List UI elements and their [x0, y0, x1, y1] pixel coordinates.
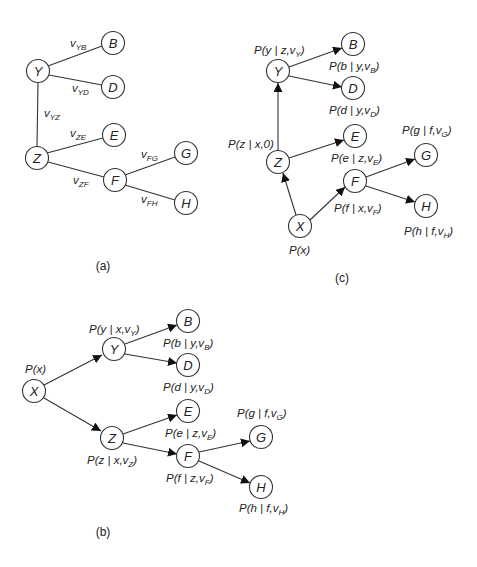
prob-b-f: P(f | z,vF)	[166, 472, 214, 487]
svg-text:E: E	[351, 129, 360, 144]
node-a-h: H	[175, 192, 198, 215]
node-c-f: F	[344, 170, 367, 193]
svg-text:F: F	[351, 174, 360, 189]
edge-b-y-d	[125, 354, 177, 363]
edge-y-z	[37, 82, 38, 147]
svg-text:Z: Z	[107, 431, 117, 446]
node-b-y: Y	[103, 338, 126, 361]
prob-b-e: P(e | z,vE)	[165, 427, 216, 442]
svg-text:G: G	[256, 430, 266, 445]
svg-text:H: H	[421, 199, 431, 214]
svg-text:E: E	[184, 404, 193, 419]
prob-b-y: P(y | x,vY)	[89, 323, 140, 338]
edge-label-ze: vZE	[70, 127, 87, 142]
figure-canvas: vYB vYD vYZ vZE vZF vFG vFH Y B D Z E F …	[0, 0, 477, 567]
node-b-g: G	[250, 426, 273, 449]
node-a-g: G	[175, 142, 198, 165]
svg-text:G: G	[421, 148, 431, 163]
panel-b: X Y B D Z E F G H P(x) P(y | x,vY) P(b |…	[23, 310, 289, 540]
svg-text:Z: Z	[273, 155, 283, 170]
node-a-b: B	[102, 32, 125, 55]
edge-label-yd: vYD	[72, 82, 89, 97]
prob-c-x: P(x)	[289, 244, 310, 256]
panel-a: vYB vYD vYZ vZE vZF vFG vFH Y B D Z E F …	[26, 32, 198, 274]
svg-text:X: X	[295, 219, 306, 234]
node-b-z: Z	[101, 427, 124, 450]
prob-c-g: P(g | f,vG)	[402, 124, 452, 139]
svg-text:D: D	[108, 80, 117, 95]
svg-text:Y: Y	[274, 64, 284, 79]
svg-text:Y: Y	[110, 342, 120, 357]
caption-a: (a)	[96, 259, 111, 273]
svg-text:G: G	[181, 146, 191, 161]
edge-c-x-z	[283, 173, 296, 215]
svg-text:Y: Y	[34, 64, 44, 79]
svg-text:H: H	[181, 196, 191, 211]
svg-text:H: H	[256, 480, 266, 495]
prob-b-h: P(h | f,vH)	[239, 502, 288, 517]
edge-label-zf: vZF	[73, 174, 90, 189]
prob-c-y: P(y | z,vY)	[254, 44, 305, 59]
node-c-g: G	[415, 144, 438, 167]
edge-f-h	[125, 185, 175, 200]
node-c-y: Y	[267, 60, 290, 83]
node-a-e: E	[103, 124, 126, 147]
prob-c-z: P(z | x,0)	[228, 138, 274, 150]
svg-text:B: B	[349, 37, 358, 52]
node-c-d: D	[342, 77, 365, 100]
prob-c-f: P(f | x,vF)	[334, 202, 382, 217]
prob-c-h: P(h | f,vH)	[404, 225, 453, 240]
prob-b-z: P(z | x,vZ)	[87, 454, 137, 469]
node-c-x: X	[289, 215, 312, 238]
prob-b-x: P(x)	[25, 363, 46, 375]
prob-c-d: P(d | y,vD)	[329, 104, 380, 119]
edge-b-x-z	[44, 398, 101, 431]
edge-label-fg: vFG	[141, 148, 158, 163]
edge-c-y-d	[289, 76, 342, 87]
panel-c: Y B D Z E F X G H P(y | z,vY) P(b | y,vB…	[228, 33, 453, 286]
svg-text:Z: Z	[32, 151, 42, 166]
edge-label-yb: vYB	[70, 37, 87, 52]
node-b-h: H	[250, 476, 273, 499]
svg-text:X: X	[29, 384, 40, 399]
node-a-y: Y	[27, 60, 50, 83]
svg-text:B: B	[184, 314, 193, 329]
node-b-x: X	[23, 380, 46, 403]
node-c-b: B	[342, 33, 365, 56]
node-a-f: F	[104, 169, 127, 192]
edge-label-yz: vYZ	[44, 107, 61, 122]
node-a-d: D	[102, 76, 125, 99]
prob-b-g: P(g | f,vG)	[237, 407, 287, 422]
node-c-e: E	[344, 125, 367, 148]
caption-c: (c)	[335, 271, 349, 285]
edge-b-x-y	[44, 355, 102, 385]
prob-c-e: P(e | z,vE)	[331, 152, 382, 167]
prob-c-b: P(b | y,vB)	[329, 60, 379, 75]
svg-text:F: F	[111, 173, 120, 188]
node-b-e: E	[177, 400, 200, 423]
node-c-z: Z	[267, 151, 290, 174]
prob-b-d: P(d | y,vD)	[163, 381, 214, 396]
edge-b-z-f	[123, 443, 177, 454]
prob-b-b: P(b | y,vB)	[163, 337, 213, 352]
node-c-h: H	[415, 195, 438, 218]
svg-text:D: D	[183, 358, 192, 373]
svg-text:B: B	[109, 36, 118, 51]
caption-b: (b)	[96, 525, 111, 539]
svg-text:E: E	[110, 128, 119, 143]
edge-b-f-g	[199, 441, 250, 452]
node-b-d: D	[177, 354, 200, 377]
svg-text:F: F	[184, 449, 193, 464]
edge-c-f-h	[366, 186, 415, 202]
svg-text:D: D	[348, 81, 357, 96]
node-a-z: Z	[26, 147, 49, 170]
node-b-f: F	[177, 445, 200, 468]
node-b-b: B	[177, 310, 200, 333]
edge-label-fh: vFH	[141, 193, 158, 208]
